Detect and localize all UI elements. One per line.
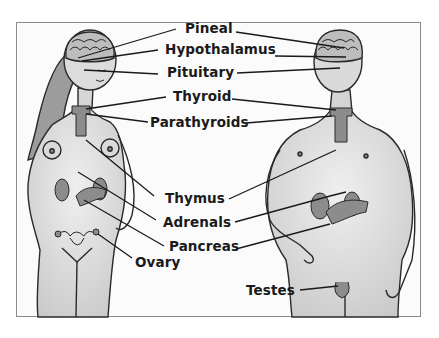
label-hypothalamus: Hypothalamus	[165, 43, 276, 57]
female-ovary-left	[55, 231, 61, 237]
label-pituitary: Pituitary	[167, 66, 234, 80]
label-testes: Testes	[246, 284, 295, 298]
label-adrenals: Adrenals	[163, 216, 231, 230]
label-ovary: Ovary	[135, 256, 180, 270]
label-thymus: Thymus	[165, 192, 225, 206]
female-adrenal-left	[55, 179, 69, 201]
label-parathyroids: Parathyroids	[150, 116, 249, 130]
label-thyroid: Thyroid	[173, 90, 232, 104]
label-pineal: Pineal	[185, 22, 233, 36]
male-figure	[266, 30, 415, 317]
label-pancreas: Pancreas	[169, 240, 239, 254]
